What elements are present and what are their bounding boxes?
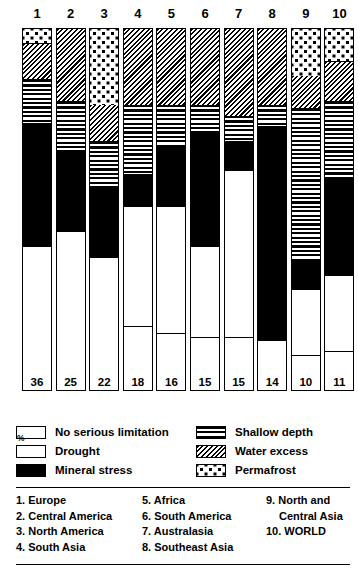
column-header-5: 5: [156, 6, 186, 21]
segment-mineral: [258, 127, 286, 341]
legend-item-shallow: Shallow depth: [196, 424, 313, 440]
legend-label: Water excess: [235, 445, 308, 457]
bar-value-label: 10: [292, 376, 320, 388]
column-header-10: 10: [324, 6, 354, 21]
segment-permafrost: [90, 29, 118, 105]
bar-value-label: 15: [191, 376, 219, 388]
segment-mineral: [23, 123, 51, 246]
segment-mineral: [90, 189, 118, 258]
segment-shallow: [225, 116, 253, 141]
segment-drought: [225, 171, 253, 338]
legend-item-drought: Drought: [16, 443, 100, 459]
legend-swatch-drought: [16, 445, 46, 458]
bar-column-10: 11: [324, 28, 354, 391]
segment-drought: [57, 232, 85, 301]
legend-label: No serious limitation: [55, 426, 169, 438]
column-header-4: 4: [123, 6, 153, 21]
segment-mineral: [292, 261, 320, 290]
legend-item-permafrost: Permafrost: [196, 462, 296, 478]
column-header-3: 3: [89, 6, 119, 21]
segment-water: [191, 29, 219, 105]
segment-shallow: [157, 105, 185, 145]
segment-drought: [157, 207, 185, 334]
bar-column-1: 36: [22, 28, 52, 391]
bar-column-6: 15: [190, 28, 220, 391]
segment-water: [292, 76, 320, 109]
segment-mineral: [57, 152, 85, 232]
segment-water: [23, 44, 51, 80]
region-key-item: 4. South Asia: [16, 540, 112, 556]
bar-value-label: 11: [325, 376, 353, 388]
region-key: 1. Europe2. Central America3. North Amer…: [16, 487, 350, 565]
bar-value-label: 36: [23, 376, 51, 388]
segment-mineral: [325, 178, 353, 276]
segment-none: [23, 261, 51, 391]
region-key-item: 2. Central America: [16, 509, 112, 525]
region-key-item: 3. North America: [16, 524, 112, 540]
segment-shallow: [258, 105, 286, 127]
segment-water: [124, 29, 152, 105]
segment-drought: [191, 247, 219, 338]
bar-column-5: 16: [156, 28, 186, 391]
column-header-8: 8: [257, 6, 287, 21]
legend-swatch-mineral: [16, 464, 46, 477]
bar-column-9: 10: [291, 28, 321, 391]
bar-column-7: 15: [224, 28, 254, 391]
segment-permafrost: [23, 29, 51, 44]
legend-label: Drought: [55, 445, 100, 457]
bar-column-2: 25: [56, 28, 86, 391]
segment-drought: [124, 207, 152, 327]
segment-shallow: [292, 109, 320, 261]
column-header-7: 7: [224, 6, 254, 21]
region-key-item: 8. Southeast Asia: [142, 540, 233, 556]
region-key-item: 7. Australasia: [142, 524, 233, 540]
legend-swatch-none: %: [16, 426, 46, 439]
percent-symbol: %: [17, 433, 25, 443]
segment-drought: [292, 290, 320, 355]
segment-water: [90, 105, 118, 141]
column-header-6: 6: [190, 6, 220, 21]
bar-column-3: 22: [89, 28, 119, 391]
segment-shallow: [90, 142, 118, 189]
region-key-item: 5. Africa: [142, 493, 233, 509]
legend-item-none: %No serious limitation: [16, 424, 169, 440]
segment-mineral: [124, 174, 152, 207]
segment-shallow: [57, 102, 85, 153]
column-header-9: 9: [291, 6, 321, 21]
bar-value-label: 25: [57, 376, 85, 388]
column-header-1: 1: [22, 6, 52, 21]
legend-swatch-shallow: [196, 426, 226, 439]
segment-mineral: [191, 134, 219, 247]
segment-shallow: [325, 102, 353, 178]
segment-water: [258, 29, 286, 105]
segment-drought: [90, 258, 118, 312]
bar-value-label: 15: [225, 376, 253, 388]
legend-item-water: Water excess: [196, 443, 308, 459]
region-key-item: 6. South America: [142, 509, 233, 525]
legend: %No serious limitationDroughtMineral str…: [16, 424, 346, 480]
legend-label: Shallow depth: [235, 426, 313, 438]
legend-label: Permafrost: [235, 464, 296, 476]
region-key-item: 10. WORLD: [266, 524, 343, 540]
segment-permafrost: [325, 29, 353, 62]
region-key-item: 9. North and: [266, 493, 343, 509]
bar-column-8: 14: [257, 28, 287, 391]
column-header-2: 2: [56, 6, 86, 21]
bar-value-label: 18: [124, 376, 152, 388]
legend-swatch-water: [196, 445, 226, 458]
segment-shallow: [23, 80, 51, 124]
region-key-item: 1. Europe: [16, 493, 112, 509]
soil-limitation-stacked-bar-chart: 12345678910 36252218161515141011 %No ser…: [0, 0, 358, 570]
region-key-column-2: 5. Africa6. South America7. Australasia8…: [142, 493, 233, 555]
segment-water: [157, 29, 185, 105]
segment-shallow: [124, 105, 152, 174]
region-key-item: Central Asia: [266, 509, 343, 525]
segment-water: [325, 62, 353, 102]
legend-label: Mineral stress: [55, 464, 132, 476]
region-key-column-1: 1. Europe2. Central America3. North Amer…: [16, 493, 112, 555]
segment-mineral: [157, 145, 185, 207]
legend-swatch-permafrost: [196, 464, 226, 477]
legend-item-mineral: Mineral stress: [16, 462, 132, 478]
bar-value-label: 22: [90, 376, 118, 388]
bar-value-label: 16: [157, 376, 185, 388]
